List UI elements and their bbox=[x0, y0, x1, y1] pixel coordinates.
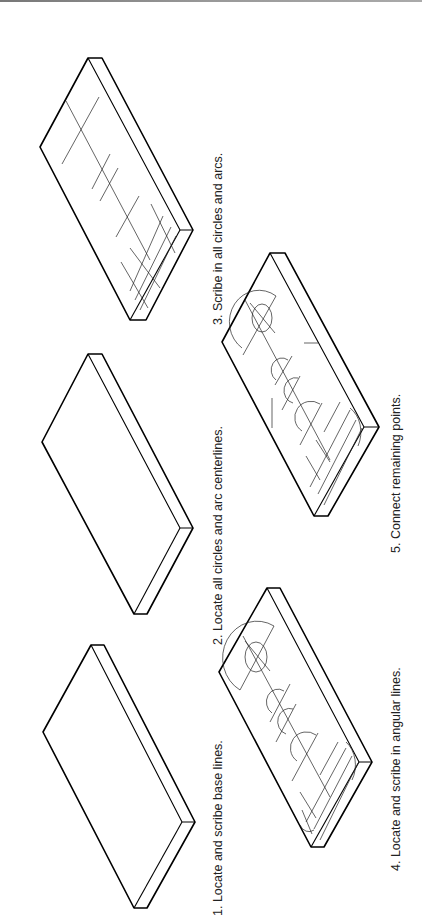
plate-step-2 bbox=[42, 354, 193, 614]
step-5-label: 5. Connect remaining points. bbox=[389, 394, 403, 553]
step-3-label: 3. Scribe in all circles and arcs. bbox=[211, 153, 225, 325]
plate-step-4 bbox=[219, 588, 372, 847]
step-4-label: 4. Locate and scribe in angular lines. bbox=[389, 667, 403, 871]
step-1-label: 1. Locate and scribe base lines. bbox=[211, 740, 225, 916]
step-2-label: 2. Locate all circles and arc centerline… bbox=[211, 426, 225, 645]
plate-step-5 bbox=[222, 253, 379, 516]
plate-step-1 bbox=[43, 645, 195, 908]
plate-step-3 bbox=[40, 58, 193, 320]
